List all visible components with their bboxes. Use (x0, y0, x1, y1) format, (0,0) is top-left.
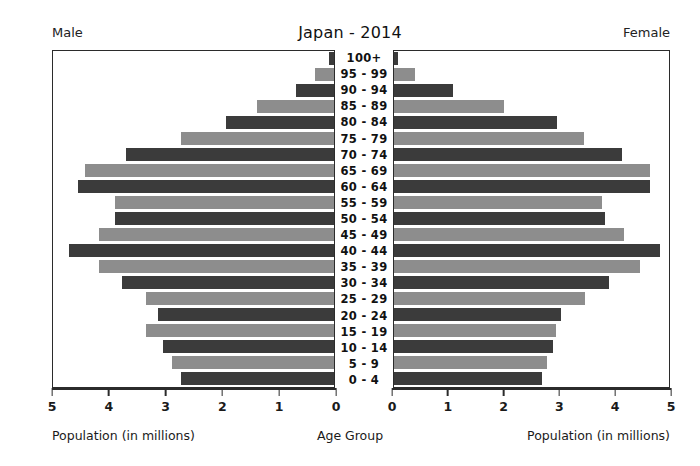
bar-male-80-84[interactable] (226, 116, 334, 128)
bar-female-0-4[interactable] (394, 372, 542, 384)
bar-male-20-24[interactable] (158, 308, 334, 320)
axis-tick: 2 (499, 388, 508, 414)
bar-female-70-74[interactable] (394, 148, 622, 160)
age-group-label: 90 - 94 (335, 82, 393, 98)
tick-mark (108, 388, 110, 396)
bar-female-5-9[interactable] (394, 356, 547, 368)
bar-row (53, 99, 334, 115)
male-plot-panel (52, 50, 335, 388)
tick-label: 0 (332, 399, 341, 414)
tick-mark (222, 388, 224, 396)
bar-female-75-79[interactable] (394, 132, 584, 144)
tick-mark (278, 388, 280, 396)
bar-female-50-54[interactable] (394, 212, 605, 224)
bar-row (394, 275, 669, 291)
bar-male-15-19[interactable] (146, 324, 334, 336)
bar-male-90-94[interactable] (296, 84, 334, 96)
bar-row (394, 323, 669, 339)
bar-row (53, 275, 334, 291)
bar-female-35-39[interactable] (394, 260, 640, 272)
bar-male-35-39[interactable] (99, 260, 334, 272)
male-x-axis-ticks: 543210 (52, 388, 336, 418)
bar-female-60-64[interactable] (394, 180, 650, 192)
bar-row (394, 67, 669, 83)
bar-female-55-59[interactable] (394, 196, 602, 208)
bar-male-75-79[interactable] (181, 132, 334, 144)
bar-row (53, 371, 334, 387)
bar-male-10-14[interactable] (163, 340, 334, 352)
bar-male-50-54[interactable] (115, 212, 334, 224)
tick-mark (559, 388, 561, 396)
bar-male-60-64[interactable] (78, 180, 334, 192)
age-group-label: 50 - 54 (335, 211, 393, 227)
axis-tick: 0 (332, 388, 341, 414)
age-group-label: 45 - 49 (335, 227, 393, 243)
age-group-label: 65 - 69 (335, 163, 393, 179)
bar-male-5-9[interactable] (172, 356, 334, 368)
female-plot-panel (393, 50, 670, 388)
female-x-axis-ticks: 012345 (392, 388, 671, 418)
tick-label: 3 (161, 399, 170, 414)
bar-male-70-74[interactable] (126, 148, 335, 160)
chart-title: Japan - 2014 (0, 24, 700, 42)
tick-label: 0 (388, 399, 397, 414)
bar-male-40-44[interactable] (69, 244, 334, 256)
bar-female-65-69[interactable] (394, 164, 650, 176)
tick-label: 3 (555, 399, 564, 414)
bar-row (53, 307, 334, 323)
bar-row (394, 243, 669, 259)
bar-female-25-29[interactable] (394, 292, 585, 304)
axis-tick: 1 (443, 388, 452, 414)
axis-tick: 3 (161, 388, 170, 414)
axis-tick: 1 (275, 388, 284, 414)
bar-male-100+[interactable] (329, 52, 334, 64)
bar-female-45-49[interactable] (394, 228, 624, 240)
bar-row (394, 195, 669, 211)
bar-female-80-84[interactable] (394, 116, 557, 128)
bar-male-30-34[interactable] (122, 276, 334, 288)
bar-row (53, 323, 334, 339)
bar-female-85-89[interactable] (394, 100, 504, 112)
bar-female-95-99[interactable] (394, 68, 415, 80)
bar-row (53, 355, 334, 371)
bar-male-65-69[interactable] (85, 164, 334, 176)
tick-mark (165, 388, 167, 396)
bar-female-30-34[interactable] (394, 276, 609, 288)
bar-female-20-24[interactable] (394, 308, 561, 320)
bar-male-0-4[interactable] (181, 372, 334, 384)
bar-row (394, 371, 669, 387)
bar-row (53, 147, 334, 163)
axis-tick: 2 (218, 388, 227, 414)
bar-female-15-19[interactable] (394, 324, 556, 336)
bar-row (394, 83, 669, 99)
bar-male-95-99[interactable] (315, 68, 334, 80)
bar-male-45-49[interactable] (99, 228, 334, 240)
tick-label: 5 (667, 399, 676, 414)
bar-row (53, 67, 334, 83)
bar-male-55-59[interactable] (115, 196, 334, 208)
age-group-label: 0 - 4 (335, 372, 393, 388)
tick-label: 2 (499, 399, 508, 414)
age-group-label: 75 - 79 (335, 131, 393, 147)
bar-row (394, 307, 669, 323)
tick-mark (447, 388, 449, 396)
bar-row (394, 227, 669, 243)
age-group-label: 15 - 19 (335, 324, 393, 340)
bar-row (394, 163, 669, 179)
age-group-label: 30 - 34 (335, 275, 393, 291)
tick-mark (503, 388, 505, 396)
axis-tick: 5 (667, 388, 676, 414)
bar-female-10-14[interactable] (394, 340, 553, 352)
bar-row (53, 211, 334, 227)
axis-tick: 0 (388, 388, 397, 414)
bar-row (394, 211, 669, 227)
tick-mark (391, 388, 393, 396)
bar-female-100+[interactable] (394, 52, 398, 64)
tick-label: 1 (443, 399, 452, 414)
age-group-label: 60 - 64 (335, 179, 393, 195)
bar-male-25-29[interactable] (146, 292, 334, 304)
bar-row (53, 243, 334, 259)
bar-female-90-94[interactable] (394, 84, 453, 96)
bar-male-85-89[interactable] (257, 100, 334, 112)
bar-female-40-44[interactable] (394, 244, 660, 256)
